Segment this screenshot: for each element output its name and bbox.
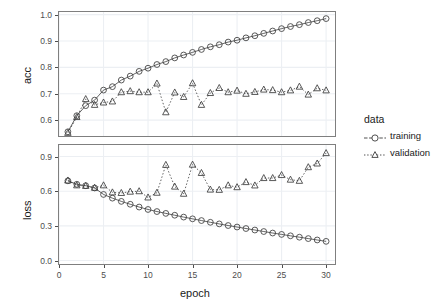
legend-key-triangle-icon bbox=[364, 147, 386, 159]
x-tick-label: 25 bbox=[270, 271, 294, 280]
x-tick-label: 15 bbox=[181, 271, 205, 280]
legend-key-circle-icon bbox=[364, 130, 386, 142]
y-tick-label: 0.6 bbox=[24, 116, 52, 125]
y-axis-title-loss: loss bbox=[22, 200, 33, 220]
y-axis-title-acc: acc bbox=[22, 67, 33, 84]
y-tick-mark bbox=[55, 67, 58, 68]
x-tick-label: 10 bbox=[136, 271, 160, 280]
x-tick-label: 5 bbox=[92, 271, 116, 280]
y-tick-label: 0.7 bbox=[24, 90, 52, 99]
accuracy-plot-area bbox=[59, 12, 335, 136]
y-tick-mark bbox=[55, 261, 58, 262]
x-tick-mark bbox=[193, 265, 194, 268]
plot-root: 0.60.70.80.91.0 0.00.30.60.9 05101520253… bbox=[0, 0, 434, 308]
legend-label-training: training bbox=[390, 131, 421, 141]
x-tick-label: 20 bbox=[225, 271, 249, 280]
legend-label-validation: validation bbox=[390, 148, 430, 158]
legend-item-validation[interactable]: validation bbox=[364, 147, 430, 159]
x-tick-mark bbox=[326, 265, 327, 268]
y-tick-mark bbox=[55, 120, 58, 121]
y-tick-mark bbox=[55, 226, 58, 227]
y-tick-label: 0.9 bbox=[24, 153, 52, 162]
y-tick-mark bbox=[55, 94, 58, 95]
y-tick-label: 1.0 bbox=[24, 11, 52, 20]
x-axis-title-epoch: epoch bbox=[180, 288, 210, 299]
accuracy-panel bbox=[58, 11, 336, 137]
y-tick-label: 0.0 bbox=[24, 257, 52, 266]
x-tick-mark bbox=[282, 265, 283, 268]
y-tick-label: 0.3 bbox=[24, 222, 52, 231]
legend-item-training[interactable]: training bbox=[364, 130, 421, 142]
loss-panel bbox=[58, 144, 336, 265]
x-tick-mark bbox=[104, 265, 105, 268]
y-tick-mark bbox=[55, 157, 58, 158]
loss-plot-area bbox=[59, 145, 335, 264]
y-tick-mark bbox=[55, 15, 58, 16]
y-tick-mark bbox=[55, 41, 58, 42]
y-tick-label: 0.9 bbox=[24, 37, 52, 46]
x-tick-mark bbox=[59, 265, 60, 268]
y-tick-label: 0.6 bbox=[24, 187, 52, 196]
legend-title: data bbox=[364, 113, 384, 125]
x-tick-label: 30 bbox=[314, 271, 338, 280]
x-tick-mark bbox=[237, 265, 238, 268]
x-tick-label: 0 bbox=[47, 271, 71, 280]
x-tick-mark bbox=[148, 265, 149, 268]
y-tick-mark bbox=[55, 191, 58, 192]
